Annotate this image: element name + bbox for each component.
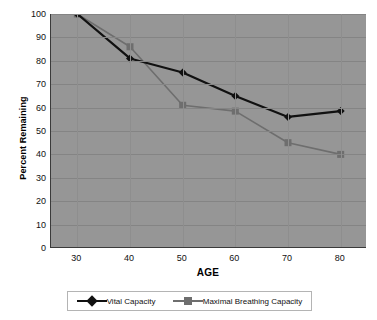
x-tick-label: 80 [320, 253, 360, 263]
gridline-vertical [77, 14, 78, 247]
x-tick-label: 50 [162, 253, 202, 263]
legend-label: Maximal Breathing Capacity [203, 297, 303, 306]
y-tick-label: 50 [22, 127, 46, 136]
y-tick-label: 60 [22, 104, 46, 113]
x-axis-title: AGE [50, 267, 366, 278]
x-tick-label: 40 [109, 253, 149, 263]
y-tick-label: 0 [22, 244, 46, 253]
y-tick-label: 100 [22, 10, 46, 19]
y-tick-label: 70 [22, 80, 46, 89]
line-chart: Percent Remaining 1009080706050403020100… [0, 0, 377, 320]
gridline-vertical [235, 14, 236, 247]
x-tick-label: 30 [56, 253, 96, 263]
gridline-vertical [183, 14, 184, 247]
plot-area [50, 14, 366, 248]
gridline-horizontal [51, 225, 366, 226]
y-tick-label: 90 [22, 33, 46, 42]
gridline-horizontal [51, 131, 366, 132]
y-tick-label: 80 [22, 57, 46, 66]
gridline-horizontal [51, 108, 366, 109]
legend-item: Vital Capacity [77, 292, 156, 310]
y-tick-label: 30 [22, 174, 46, 183]
gridline-vertical [341, 14, 342, 247]
legend-marker-diamond-icon [77, 296, 107, 306]
gridline-horizontal [51, 84, 366, 85]
legend-label: Vital Capacity [107, 297, 156, 306]
gridline-horizontal [51, 14, 366, 15]
gridline-horizontal [51, 37, 366, 38]
x-tick-label: 70 [267, 253, 307, 263]
gridline-vertical [288, 14, 289, 247]
chart-legend: Vital CapacityMaximal Breathing Capacity [67, 291, 312, 311]
y-axis-tick-labels: 1009080706050403020100 [22, 14, 46, 248]
legend-item: Maximal Breathing Capacity [173, 292, 303, 310]
series-line [77, 14, 340, 117]
gridline-horizontal [51, 154, 366, 155]
gridline-horizontal [51, 61, 366, 62]
legend-marker-square-icon [173, 296, 203, 306]
x-axis-tick-labels: 304050607080 [50, 253, 366, 267]
gridline-horizontal [51, 201, 366, 202]
y-tick-label: 40 [22, 150, 46, 159]
gridline-horizontal [51, 178, 366, 179]
y-tick-label: 20 [22, 197, 46, 206]
x-tick-label: 60 [214, 253, 254, 263]
gridline-vertical [130, 14, 131, 247]
y-tick-label: 10 [22, 221, 46, 230]
